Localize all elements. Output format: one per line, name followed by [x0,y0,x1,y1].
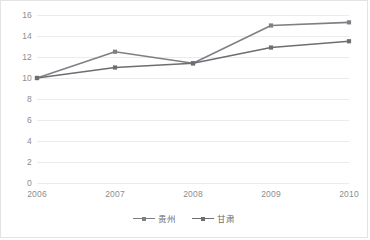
x-axis-tick-label: 2009 [261,190,281,199]
data-point-marker [269,23,273,27]
data-point-marker [269,45,273,49]
legend-marker [142,217,146,221]
y-axis-tick-label: 4 [27,137,32,146]
y-axis-tick-label: 12 [22,53,32,62]
series-line [37,22,349,78]
data-point-marker [347,39,351,43]
data-point-marker [113,65,117,69]
x-axis-tick-label: 2008 [183,190,203,199]
y-axis-tick-label: 0 [27,179,32,188]
y-axis-tick-label: 2 [27,158,32,167]
legend-swatch [192,215,214,223]
y-axis-tick-label: 14 [22,32,32,41]
y-axis-tick-label: 8 [27,95,32,104]
plot-area: 0246810121416 20062007200820092010 [37,15,349,183]
data-point-marker [113,50,117,54]
x-axis-tick-label: 2006 [27,190,47,199]
legend-marker [201,217,205,221]
chart-container: 0246810121416 20062007200820092010 贵州甘肃 [0,0,368,238]
data-point-marker [35,76,39,80]
legend-label: 贵州 [158,215,176,224]
data-point-marker [347,20,351,24]
data-series [35,39,351,80]
series-line [37,41,349,78]
legend-item[interactable]: 贵州 [133,215,176,224]
data-point-marker [191,61,195,65]
legend-item[interactable]: 甘肃 [192,215,235,224]
legend-label: 甘肃 [217,215,235,224]
chart-legend: 贵州甘肃 [1,215,367,224]
y-axis-tick-label: 10 [22,74,32,83]
series-layer [37,15,349,183]
x-axis-tick-label: 2010 [339,190,359,199]
y-axis-tick-label: 6 [27,116,32,125]
x-axis-tick-label: 2007 [105,190,125,199]
y-axis-tick-label: 16 [22,11,32,20]
gridline [37,183,349,184]
legend-swatch [133,215,155,223]
